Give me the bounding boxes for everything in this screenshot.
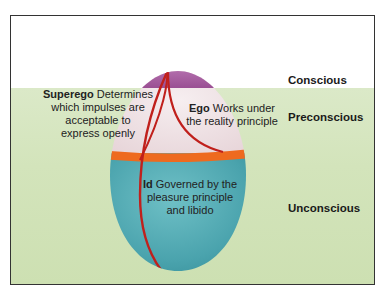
superego-desc-1: Determines (94, 88, 153, 100)
superego-desc-3: acceptable to (38, 114, 158, 127)
level-preconscious: Preconscious (288, 111, 363, 123)
conscious-cap (100, 60, 260, 88)
id-desc-2: pleasure principle (140, 191, 240, 204)
ego-label: Ego Works under the reality principle (184, 102, 280, 128)
ego-desc-1: Works under (210, 102, 275, 114)
superego-desc-2: which impulses are (38, 101, 158, 114)
unconscious-region (100, 153, 260, 283)
id-desc-3: and libido (140, 204, 240, 217)
psyche-egg (0, 0, 383, 292)
level-conscious: Conscious (288, 74, 347, 86)
level-unconscious: Unconscious (288, 202, 360, 214)
id-label: Id Governed by the pleasure principle an… (140, 178, 240, 217)
id-desc-1: Governed by the (153, 178, 237, 190)
id-name: Id (143, 178, 153, 190)
superego-desc-4: express openly (38, 127, 158, 140)
ego-desc-2: the reality principle (184, 115, 280, 128)
superego-name: Superego (43, 88, 94, 100)
ego-name: Ego (189, 102, 210, 114)
superego-label: Superego Determines which impulses are a… (38, 88, 158, 140)
